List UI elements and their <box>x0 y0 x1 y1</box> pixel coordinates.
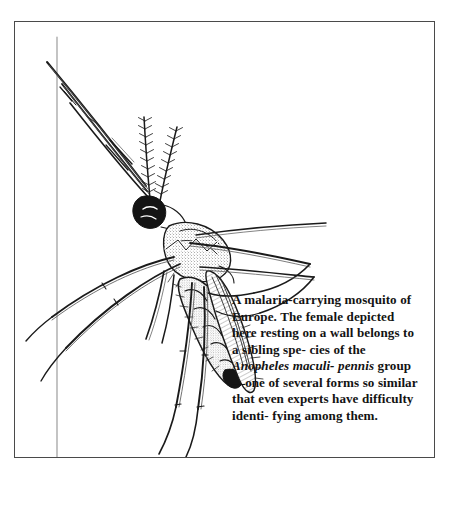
illustration-plate: A malaria-carrying mosquito of Europe. T… <box>0 0 452 505</box>
caption-line-5-prefix: cies of the <box>309 342 365 357</box>
species-name-part-1: Anopheles maculi- <box>232 358 335 373</box>
figure-caption: A malaria-carrying mosquito of Europe. T… <box>232 292 418 424</box>
caption-line-1: A malaria-carrying mosquito <box>232 292 397 307</box>
caption-line-9: fying among them. <box>272 408 378 423</box>
species-name-part-2: pennis <box>338 358 374 373</box>
